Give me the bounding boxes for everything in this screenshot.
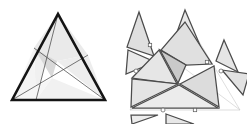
- vertex-marker-circle-left: [134, 69, 138, 73]
- vertex-marker-circle-bottom: [161, 108, 165, 112]
- vertex-marker-circle-right: [219, 69, 223, 73]
- figure-root: [0, 0, 247, 124]
- dissection-figure: [0, 0, 247, 124]
- vertex-marker-square-bottom: [193, 108, 196, 111]
- vertex-marker-square-upper-right: [205, 60, 208, 63]
- vertex-marker-square-upper-left: [148, 43, 151, 46]
